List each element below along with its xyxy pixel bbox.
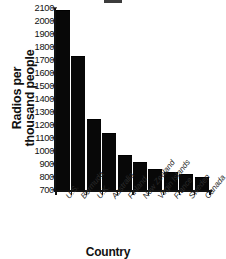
y-tick-label-1400: 1400 <box>24 94 54 104</box>
y-tick-label-1900: 1900 <box>24 29 54 39</box>
y-tick-label-2000: 2000 <box>24 16 54 26</box>
clipped-title-fragment <box>104 0 122 3</box>
x-axis-tick-labels: U.S.BermudaU.K.AustraliaFinlandNew Zeala… <box>0 192 216 248</box>
y-tick-label-1800: 1800 <box>24 42 54 52</box>
y-tick-label-1300: 1300 <box>24 107 54 117</box>
y-tick-label-1700: 1700 <box>24 55 54 65</box>
y-tick-label-1000: 1000 <box>24 146 54 156</box>
x-axis-title: Country <box>0 245 216 259</box>
bar <box>102 133 116 190</box>
y-tick-label-1600: 1600 <box>24 68 54 78</box>
y-tick-label-1100: 1100 <box>24 133 54 143</box>
y-tick-label-1500: 1500 <box>24 81 54 91</box>
y-tick-label-900: 900 <box>24 159 54 169</box>
bar <box>56 10 70 190</box>
y-tick-label-800: 800 <box>24 172 54 182</box>
y-tick-label-1200: 1200 <box>24 120 54 130</box>
y-tick-label-2100: 2100 <box>24 3 54 13</box>
bar <box>71 56 85 190</box>
